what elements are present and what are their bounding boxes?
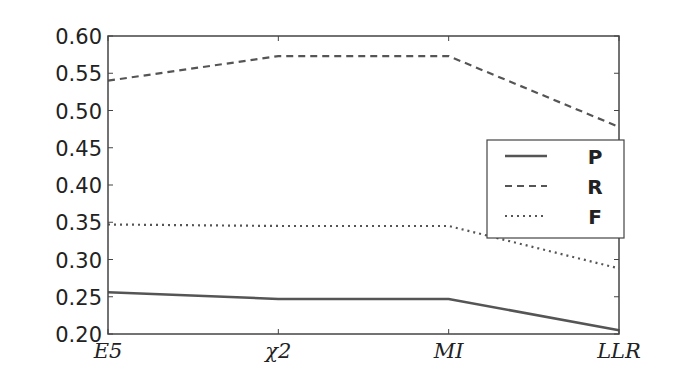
legend-label: R [587,175,602,199]
y-tick-label: 0.30 [55,249,102,273]
y-tick-label: 0.25 [55,286,102,310]
line-chart: 0.200.250.300.350.400.450.500.550.60 E5χ… [0,0,684,381]
y-tick-label: 0.50 [55,100,102,124]
y-tick-label: 0.40 [55,174,102,198]
y-tick-label: 0.45 [55,137,102,161]
y-tick-label: 0.60 [55,25,102,49]
legend-label: F [588,205,602,229]
x-tick-label: E5 [93,339,123,363]
series-line-R [108,56,619,127]
y-tick-label: 0.35 [55,211,102,235]
legend: PRF [487,140,624,238]
x-tick-label: χ2 [263,339,291,363]
x-tick-label: MI [433,339,465,363]
legend-box [487,140,624,238]
series-line-P [108,292,619,330]
y-tick-label: 0.55 [55,62,102,86]
legend-label: P [588,145,603,169]
x-tick-label: LLR [596,339,641,363]
